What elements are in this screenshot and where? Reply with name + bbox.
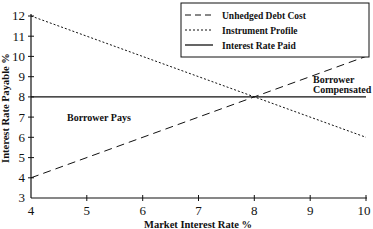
x-tick-8: 8 xyxy=(251,203,258,218)
x-tick-10: 10 xyxy=(358,203,371,218)
y-tick-7: 7 xyxy=(19,110,26,125)
x-tick-9: 9 xyxy=(307,203,314,218)
y-tick-12: 12 xyxy=(12,8,25,23)
legend-label: Unhedged Debt Cost xyxy=(222,11,307,21)
legend-label: Interest Rate Paid xyxy=(222,41,296,51)
legend: Unhedged Debt Cost Instrument Profile In… xyxy=(181,3,369,57)
y-tick-8: 8 xyxy=(19,89,26,104)
annotation-borrower-pays: Borrower Pays xyxy=(67,112,131,123)
y-tick-9: 9 xyxy=(19,69,26,84)
y-tick-labels: 3 4 5 6 7 8 9 10 11 12 xyxy=(12,8,26,205)
y-tick-5: 5 xyxy=(19,150,26,165)
y-tick-4: 4 xyxy=(19,170,26,185)
y-axis-title: Interest Rate Payable % xyxy=(0,53,11,163)
x-axis-title: Market Interest Rate % xyxy=(144,219,252,229)
x-tick-labels: 4 5 6 7 8 9 10 xyxy=(28,203,371,218)
y-tick-3: 3 xyxy=(19,190,26,205)
legend-label: Instrument Profile xyxy=(222,26,298,36)
y-tick-6: 6 xyxy=(19,130,26,145)
y-tick-10: 10 xyxy=(12,49,25,64)
x-tick-4: 4 xyxy=(28,203,35,218)
chart: 3 4 5 6 7 8 9 10 11 12 4 5 6 7 8 9 10 Ma… xyxy=(0,0,373,229)
x-tick-5: 5 xyxy=(84,203,91,218)
x-tick-6: 6 xyxy=(139,203,146,218)
x-tick-7: 7 xyxy=(195,203,202,218)
y-tick-11: 11 xyxy=(12,29,25,44)
annotation-borrower-compensated-2: Compensated xyxy=(313,84,372,95)
